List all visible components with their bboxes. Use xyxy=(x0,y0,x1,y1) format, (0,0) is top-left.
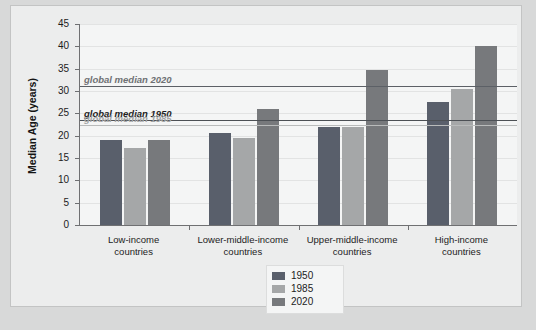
y-axis-tick xyxy=(75,46,80,47)
y-axis-tick xyxy=(75,113,80,114)
x-axis-label-line: countries xyxy=(407,246,516,258)
x-axis-category-label: High-incomecountries xyxy=(407,234,516,257)
legend-label-1950: 1950 xyxy=(291,271,313,281)
y-axis-title: Median Age (years) xyxy=(26,78,38,174)
y-axis-tick xyxy=(75,91,80,92)
bar-1950-group-1 xyxy=(100,140,122,225)
bar-1985-group-3 xyxy=(342,127,364,225)
chart-card: Median Age (years) global median 2020glo… xyxy=(10,5,522,307)
legend-item: 2020 xyxy=(272,296,338,308)
reference-line-1 xyxy=(80,86,517,87)
legend-label-2020: 2020 xyxy=(291,297,313,307)
x-axis-category-label: Low-incomecountries xyxy=(79,234,188,257)
bar-2020-group-3 xyxy=(366,70,388,225)
x-axis-tick xyxy=(299,225,300,230)
y-axis-tick-label: 30 xyxy=(39,86,69,96)
bar-2020-group-4 xyxy=(475,46,497,225)
chart-figure: Median Age (years) global median 2020glo… xyxy=(0,0,536,330)
bar-1985-group-4 xyxy=(451,89,473,225)
y-axis-tick-label: 35 xyxy=(39,64,69,74)
reference-line-3 xyxy=(80,125,517,126)
x-axis-tick xyxy=(189,225,190,230)
bar-1985-group-1 xyxy=(124,148,146,225)
bar-1950-group-2 xyxy=(209,133,231,225)
legend-swatch-1950 xyxy=(272,272,285,280)
gridline xyxy=(80,46,517,47)
bar-1950-group-3 xyxy=(318,127,340,225)
x-axis-label-line: countries xyxy=(79,246,188,258)
y-axis-tick-label: 0 xyxy=(39,220,69,230)
x-axis-label-line: Lower-middle-income xyxy=(188,234,297,246)
gridline xyxy=(80,24,517,25)
x-axis-label-line: High-income xyxy=(407,234,516,246)
y-axis-tick xyxy=(75,203,80,204)
y-axis-tick xyxy=(75,24,80,25)
y-axis-tick-label: 40 xyxy=(39,41,69,51)
bar-1985-group-2 xyxy=(233,138,255,225)
legend-swatch-1985 xyxy=(272,285,285,293)
legend-swatch-2020 xyxy=(272,298,285,306)
x-axis-category-label: Lower-middle-incomecountries xyxy=(188,234,297,257)
gridline xyxy=(80,69,517,70)
bar-2020-group-1 xyxy=(148,140,170,225)
y-axis-tick xyxy=(75,180,80,181)
y-axis-tick xyxy=(75,158,80,159)
x-axis-label-line: Upper-middle-income xyxy=(298,234,407,246)
y-axis-tick xyxy=(75,69,80,70)
y-axis-tick-label: 20 xyxy=(39,131,69,141)
y-axis-tick xyxy=(75,136,80,137)
x-axis-label-line: countries xyxy=(298,246,407,258)
chart-legend: 1950 1985 2020 xyxy=(266,265,344,314)
y-axis-tick xyxy=(75,225,80,226)
reference-line-label-3: global median 1985 xyxy=(84,113,172,124)
x-axis-category-label: Upper-middle-incomecountries xyxy=(298,234,407,257)
y-axis-tick-label: 5 xyxy=(39,198,69,208)
y-axis-tick-label: 25 xyxy=(39,108,69,118)
y-axis-tick-label: 15 xyxy=(39,153,69,163)
reference-line-label-1: global median 2020 xyxy=(84,74,172,85)
plot-area: global median 2020global median 1950glob… xyxy=(79,24,517,226)
x-axis-label-line: countries xyxy=(188,246,297,258)
legend-item: 1950 xyxy=(272,270,338,282)
x-axis-label-line: Low-income xyxy=(79,234,188,246)
legend-label-1985: 1985 xyxy=(291,284,313,294)
y-axis-tick-label: 45 xyxy=(39,19,69,29)
y-axis-tick-label: 10 xyxy=(39,175,69,185)
x-axis-tick xyxy=(408,225,409,230)
legend-item: 1985 xyxy=(272,283,338,295)
